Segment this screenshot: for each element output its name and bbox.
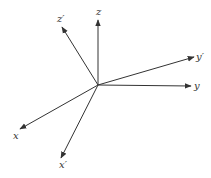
y-axis-arrow <box>98 85 191 86</box>
y-prime-axis-label: y′ <box>195 51 205 62</box>
z-prime-axis-arrow <box>62 27 98 85</box>
y-prime-axis-arrow <box>98 57 194 85</box>
z-prime-axis-label: z′ <box>56 13 65 24</box>
x-axis-label: x <box>13 130 19 141</box>
labels-group: zz′y′yxx′ <box>13 6 205 170</box>
coordinate-axes-diagram: zz′y′yxx′ <box>0 0 211 178</box>
axes-group <box>20 20 194 158</box>
z-axis-label: z <box>95 6 102 17</box>
x-prime-axis-label: x′ <box>59 159 68 170</box>
y-axis-label: y <box>193 80 200 91</box>
